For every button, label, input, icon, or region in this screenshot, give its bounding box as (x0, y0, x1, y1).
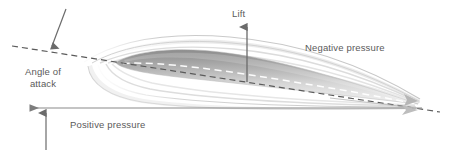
lift-label: Lift (232, 8, 245, 20)
positive-pressure-label: Positive pressure (70, 119, 145, 131)
angle-of-attack-label-line2: attack (30, 78, 56, 89)
negative-pressure-label: Negative pressure (305, 42, 385, 54)
angle-of-attack-label-line1: Angle of (25, 66, 61, 77)
airfoil-lift-diagram: Lift Negative pressure Angle ofattack Po… (0, 0, 457, 156)
angle-of-attack-label: Angle ofattack (12, 66, 74, 89)
angle-of-attack-arrow[interactable] (52, 9, 66, 46)
